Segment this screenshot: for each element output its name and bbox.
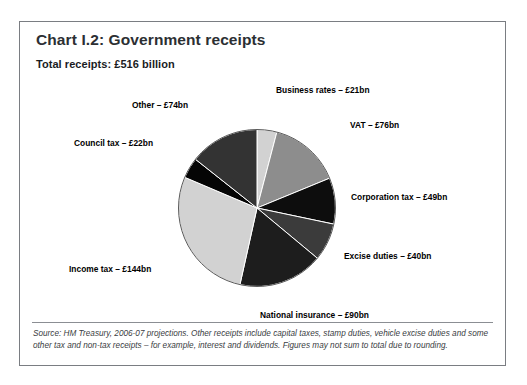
- source-note: Source: HM Treasury, 2006-07 projections…: [33, 328, 495, 351]
- chart-figure: Chart I.2: Government receipts Total rec…: [19, 21, 506, 366]
- pie-chart-plot-area: Business rates – £21bn VAT – £76bn Corpo…: [20, 22, 507, 327]
- footnote-divider: [32, 322, 493, 323]
- slice-label-business-rates: Business rates – £21bn: [276, 85, 370, 95]
- pie-slice-group: [178, 130, 335, 287]
- slice-label-income-tax: Income tax – £144bn: [69, 264, 151, 274]
- slice-label-council-tax: Council tax – £22bn: [74, 138, 153, 148]
- slice-label-other: Other – £74bn: [132, 100, 188, 110]
- slice-label-vat: VAT – £76bn: [350, 120, 399, 130]
- pie-chart-svg: [20, 22, 507, 327]
- slice-label-excise-duties: Excise duties – £40bn: [344, 251, 431, 261]
- slice-label-national-insurance: National insurance – £90bn: [260, 310, 369, 320]
- slice-label-corporation-tax: Corporation tax – £49bn: [351, 192, 447, 202]
